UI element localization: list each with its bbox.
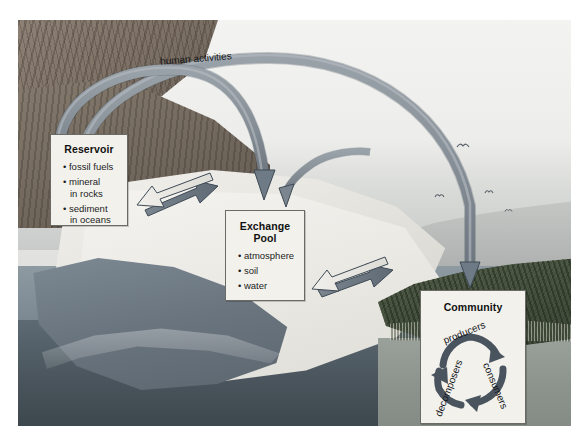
- community-box[interactable]: Community producers consumers decomposer…: [420, 290, 526, 424]
- exchange-pool-title-line2: Pool: [232, 232, 298, 244]
- exchange-pool-title-line1: Exchange: [232, 220, 298, 232]
- list-item-text: sediment: [69, 203, 108, 214]
- bird-icon: [456, 142, 470, 151]
- list-item: soil: [238, 265, 298, 277]
- consumers-arrowhead: [465, 395, 481, 412]
- exchange-pool-box[interactable]: Exchange Pool atmosphere soil water: [225, 210, 305, 301]
- community-title: Community: [421, 301, 525, 313]
- list-item: mineral in rocks: [63, 176, 121, 199]
- list-item-text: atmosphere: [244, 250, 294, 261]
- list-item: water: [238, 280, 298, 292]
- list-item-cont: in rocks: [70, 188, 121, 200]
- list-item-text: water: [244, 280, 267, 291]
- bird-icon: [504, 206, 513, 215]
- list-item-cont: in oceans: [70, 214, 121, 226]
- list-item: atmosphere: [238, 250, 298, 262]
- exchange-pool-list: atmosphere soil water: [232, 250, 298, 292]
- list-item: fossil fuels: [63, 161, 121, 173]
- bird-icon: [484, 188, 494, 197]
- reservoir-box[interactable]: Reservoir fossil fuels mineral in rocks …: [50, 134, 128, 226]
- reservoir-list: fossil fuels mineral in rocks sediment i…: [57, 161, 121, 226]
- list-item-text: fossil fuels: [69, 161, 113, 172]
- list-item-text: mineral: [69, 176, 100, 187]
- list-item: sediment in oceans: [63, 203, 121, 226]
- community-cycle: producers consumers decomposers: [421, 313, 527, 425]
- list-item-text: soil: [244, 265, 258, 276]
- reservoir-title: Reservoir: [57, 143, 121, 155]
- bird-icon: [434, 192, 445, 201]
- figure-root: human activities Reservoir fossil fuels …: [0, 0, 586, 441]
